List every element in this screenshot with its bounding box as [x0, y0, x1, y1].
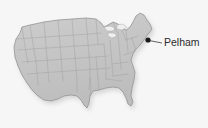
pelham-label: Pelham	[164, 36, 200, 48]
pelham-location-dot[interactable]	[145, 37, 150, 42]
locator-map-figure: Pelham	[0, 0, 208, 128]
us-map-svg: Pelham	[0, 0, 208, 128]
